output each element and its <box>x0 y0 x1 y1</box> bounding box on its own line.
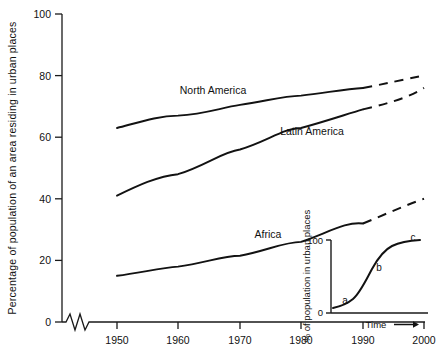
inset-y-tick-label-0: 0 <box>318 307 323 318</box>
y-tick-label-60: 60 <box>39 131 51 143</box>
series-line-africa <box>117 223 363 276</box>
y-axis-title: Percentage of population of an area resi… <box>6 22 18 315</box>
series-projection-africa <box>363 199 424 224</box>
y-tick-label-100: 100 <box>33 8 51 20</box>
y-tick-label-80: 80 <box>39 70 51 82</box>
y-axis-group: 100 80 60 40 20 0 Percentage of populati… <box>6 8 62 328</box>
series-latin-america: Latin America <box>117 88 424 196</box>
x-tick-label-1990: 1990 <box>351 334 375 346</box>
series-line-latin-america <box>117 109 363 195</box>
series-label-latin-america: Latin America <box>280 125 344 137</box>
chart-figure: 100 80 60 40 20 0 Percentage of populati… <box>0 0 437 359</box>
x-tick-label-1960: 1960 <box>166 334 190 346</box>
y-tick-label-40: 40 <box>39 193 51 205</box>
x-tick-label-1970: 1970 <box>228 334 252 346</box>
inset-point-label-a: a <box>342 295 348 306</box>
y-tick-label-20: 20 <box>39 254 51 266</box>
x-tick-label-2000: 2000 <box>412 334 436 346</box>
series-projection-north-america <box>363 76 424 88</box>
inset-point-label-c: c <box>411 232 416 243</box>
x-tick-label-1950: 1950 <box>105 334 129 346</box>
inset-y-axis-title: % of population in urban places <box>301 209 312 342</box>
series-projection-latin-america <box>363 88 424 110</box>
series-label-north-america: North America <box>180 84 247 96</box>
inset-point-label-b: b <box>376 262 382 273</box>
series-north-america: North America <box>117 76 424 128</box>
inset-x-axis-title: Time <box>366 319 387 330</box>
y-tick-label-0: 0 <box>45 316 51 328</box>
series-label-africa: Africa <box>255 228 282 240</box>
chart-canvas: 100 80 60 40 20 0 Percentage of populati… <box>0 0 437 359</box>
